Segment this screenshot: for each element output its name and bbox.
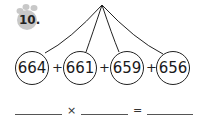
addend-4: 656 — [156, 59, 190, 77]
plus-sign-2: + — [99, 60, 110, 75]
addend-3: 659 — [110, 59, 144, 77]
addend-1: 664 — [15, 59, 49, 77]
answer-blank-3[interactable] — [147, 114, 193, 115]
equals-sign: = — [133, 104, 142, 117]
plus-sign-1: + — [52, 60, 63, 75]
answer-blank-1[interactable] — [15, 114, 62, 115]
times-sign: × — [67, 104, 76, 117]
addend-2: 661 — [63, 59, 97, 77]
answer-blank-2[interactable] — [81, 114, 128, 115]
